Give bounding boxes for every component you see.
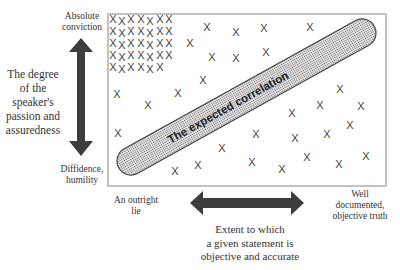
x-mark: X: [165, 25, 173, 37]
x-mark: X: [252, 128, 260, 140]
x-mark: X: [146, 15, 154, 27]
x-mark: X: [199, 74, 207, 86]
x-mark: X: [335, 158, 343, 170]
x-mark: X: [156, 25, 164, 37]
x-mark: X: [109, 37, 117, 49]
bottom-axis-line-1: Extent to which: [175, 223, 325, 237]
x-mark: X: [291, 132, 299, 144]
x-mark: X: [232, 26, 240, 38]
vertical-double-arrow-icon: [69, 38, 93, 156]
bottom-axis-title: Extent to which a given statement is obj…: [175, 223, 325, 264]
x-mark: X: [127, 49, 135, 61]
label-outright-lie-line-2: lie: [106, 206, 166, 217]
x-mark: X: [109, 61, 117, 73]
x-mark: X: [118, 15, 126, 27]
x-mark: X: [203, 21, 211, 33]
label-outright-lie-line-1: An outright: [106, 195, 166, 206]
x-mark: X: [127, 25, 135, 37]
x-mark: X: [208, 51, 216, 63]
label-diffidence-humility: Diffidence, humility: [52, 164, 112, 186]
x-mark: X: [118, 63, 126, 75]
x-mark: X: [137, 37, 145, 49]
x-mark: X: [156, 49, 164, 61]
x-mark: X: [232, 52, 240, 64]
x-mark: X: [165, 49, 173, 61]
x-mark: X: [248, 156, 256, 168]
x-mark: X: [357, 100, 365, 112]
x-mark: X: [127, 13, 135, 25]
x-mark: X: [146, 63, 154, 75]
x-mark: X: [118, 27, 126, 39]
x-mark: X: [118, 51, 126, 63]
left-axis-line-2: of the: [0, 81, 66, 95]
x-mark: X: [316, 99, 324, 111]
label-objective-truth: Well documented, objective truth: [320, 189, 400, 222]
left-axis-line-5: assuredness: [0, 123, 66, 137]
label-objective-truth-line-3: objective truth: [320, 211, 400, 222]
label-outright-lie: An outright lie: [106, 195, 166, 217]
x-mark: X: [146, 51, 154, 63]
x-mark: X: [278, 163, 286, 175]
label-objective-truth-line-1: Well: [320, 189, 400, 200]
x-mark: X: [146, 27, 154, 39]
x-mark: X: [165, 13, 173, 25]
label-absolute-conviction-text: Absolute conviction: [62, 11, 102, 32]
x-mark: X: [306, 21, 314, 33]
label-diffidence-humility-text: Diffidence, humility: [61, 164, 104, 185]
label-absolute-conviction: Absolute conviction: [52, 11, 112, 33]
left-axis-line-4: passion and: [0, 109, 66, 123]
x-mark: X: [186, 37, 194, 49]
x-mark: X: [323, 128, 331, 140]
x-mark: X: [109, 49, 117, 61]
left-axis-title: The degree of the speaker's passion and …: [0, 67, 66, 137]
x-mark: X: [114, 127, 122, 139]
x-mark: X: [260, 22, 268, 34]
x-mark: X: [156, 37, 164, 49]
x-mark: X: [113, 88, 121, 100]
x-mark: X: [137, 49, 145, 61]
x-mark: X: [362, 150, 370, 162]
label-objective-truth-line-2: documented,: [320, 200, 400, 211]
x-mark: X: [127, 37, 135, 49]
x-mark: X: [156, 61, 164, 73]
x-mark: X: [288, 107, 296, 119]
x-mark: X: [146, 39, 154, 51]
left-axis-line-1: The degree: [0, 67, 66, 81]
x-mark: X: [303, 151, 311, 163]
x-mark: X: [218, 142, 226, 154]
x-mark: X: [165, 37, 173, 49]
x-mark: X: [137, 25, 145, 37]
x-mark: X: [118, 39, 126, 51]
x-mark: X: [262, 46, 270, 58]
x-mark: X: [144, 99, 152, 111]
x-mark: X: [127, 61, 135, 73]
x-mark: X: [171, 165, 179, 177]
x-mark: X: [156, 13, 164, 25]
x-mark: X: [137, 61, 145, 73]
left-axis-line-3: speaker's: [0, 95, 66, 109]
x-mark: X: [336, 83, 344, 95]
bottom-axis-line-2: a given statement is: [175, 237, 325, 251]
bottom-axis-line-3: objective and accurate: [175, 250, 325, 264]
x-mark: X: [346, 119, 354, 131]
x-mark: X: [137, 13, 145, 25]
x-mark: X: [194, 159, 202, 171]
x-mark: X: [174, 87, 182, 99]
horizontal-double-arrow-icon: [190, 191, 304, 215]
